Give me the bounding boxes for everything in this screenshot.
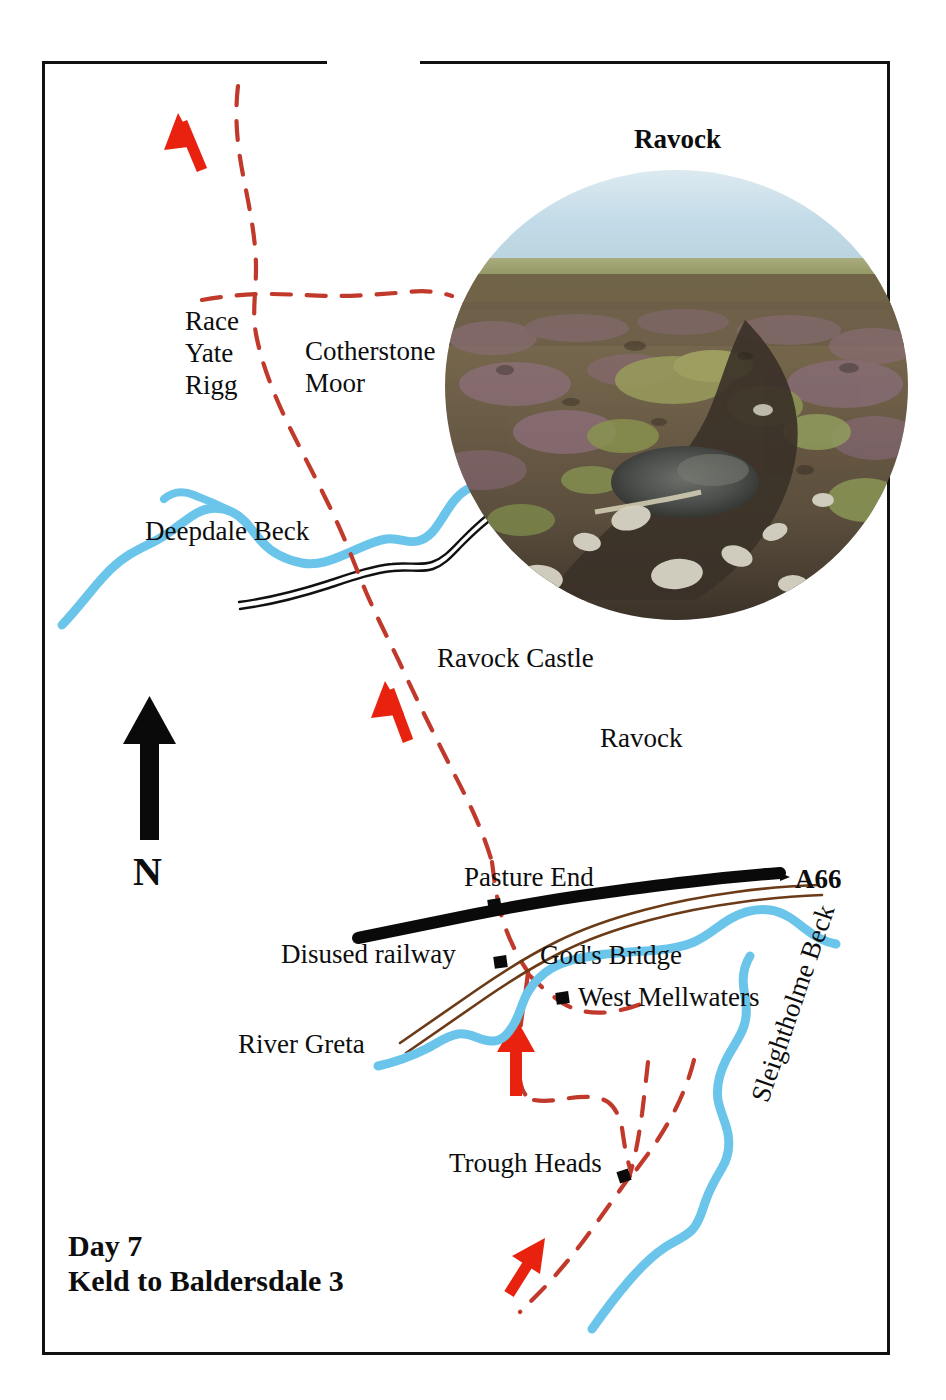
label-race-yate-rigg: Race Yate Rigg xyxy=(185,306,239,402)
moorland-photograph xyxy=(445,170,908,620)
caption-day: Day 7 xyxy=(68,1229,142,1262)
ravock-photo-inset xyxy=(445,170,908,620)
building-marker-west-mellwaters xyxy=(555,991,570,1005)
caption-stage: Keld to Baldersdale 3 xyxy=(68,1264,344,1297)
label-a66: A66 xyxy=(795,864,842,896)
label-ravock: Ravock xyxy=(600,723,682,755)
direction-arrow-trough-heads xyxy=(509,1238,545,1294)
label-west-mellwaters: West Mellwaters xyxy=(578,982,760,1014)
photo-title-ravock: Ravock xyxy=(634,124,721,156)
north-arrow-icon xyxy=(123,696,176,840)
label-disused-railway: Disused railway xyxy=(281,939,456,971)
direction-arrow-ravock-castle xyxy=(371,681,408,741)
label-pasture-end: Pasture End xyxy=(464,862,594,894)
north-label: N xyxy=(133,848,162,895)
label-deepdale-beck: Deepdale Beck xyxy=(145,516,309,548)
direction-arrow-river-greta xyxy=(497,1018,535,1096)
label-gods-bridge: God's Bridge xyxy=(540,940,682,972)
label-trough-heads: Trough Heads xyxy=(449,1148,602,1180)
building-marker-gods-bridge xyxy=(493,955,508,969)
label-ravock-castle: Ravock Castle xyxy=(437,643,594,675)
building-marker-pasture-end xyxy=(487,898,502,912)
label-river-greta: River Greta xyxy=(238,1029,365,1061)
label-cotherstone-moor: Cotherstone Moor xyxy=(305,336,435,400)
figure-caption: Day 7Keld to Baldersdale 3 xyxy=(68,1228,344,1299)
map-figure: Ravock Race Yate Rigg Cotherstone Moor D… xyxy=(0,0,946,1400)
direction-arrow-north-upper xyxy=(164,113,202,170)
